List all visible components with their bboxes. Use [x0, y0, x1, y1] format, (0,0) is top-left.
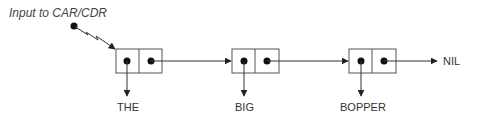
car-label-1: THE: [117, 101, 139, 113]
nil-label: NIL: [443, 55, 460, 67]
car-label-3: BOPPER: [340, 101, 386, 113]
input-pointer: [71, 23, 116, 50]
cons-cell-1: [116, 49, 231, 96]
cons-cell-2: [232, 49, 348, 96]
car-label-2: BIG: [235, 101, 254, 113]
cons-cell-3: [349, 49, 437, 96]
